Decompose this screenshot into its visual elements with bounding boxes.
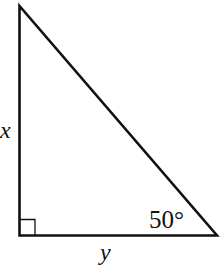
angle-label: 50° xyxy=(149,206,184,233)
vertical-leg-label: x xyxy=(0,117,11,143)
horizontal-leg-label: y xyxy=(98,239,111,265)
triangle-shape xyxy=(20,6,218,236)
triangle-diagram: x y 50° xyxy=(0,0,221,269)
right-angle-marker xyxy=(20,220,36,236)
